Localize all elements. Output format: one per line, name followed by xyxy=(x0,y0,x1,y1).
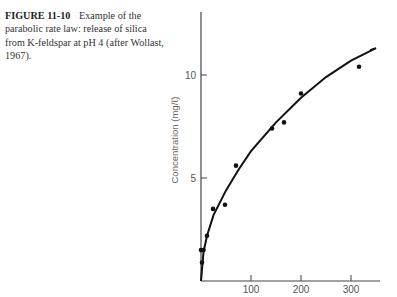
data-point xyxy=(357,64,362,69)
chart-labels: 100200300510Concentration (mg/ℓ) xyxy=(169,70,360,295)
data-point xyxy=(223,202,228,207)
data-point xyxy=(270,126,275,131)
data-point xyxy=(299,91,304,96)
data-point xyxy=(234,163,239,168)
x-tick-label: 200 xyxy=(293,284,310,295)
data-point xyxy=(282,120,287,125)
fit-curve xyxy=(201,48,376,281)
y-tick-label: 10 xyxy=(185,70,197,81)
x-tick-label: 100 xyxy=(243,284,260,295)
data-points xyxy=(199,64,362,264)
y-tick-label: 5 xyxy=(190,173,196,184)
chart: 100200300510Concentration (mg/ℓ) xyxy=(0,0,397,297)
y-axis-title: Concentration (mg/ℓ) xyxy=(169,96,180,183)
data-point xyxy=(211,207,216,212)
data-point xyxy=(205,233,210,238)
x-tick-label: 300 xyxy=(343,284,360,295)
data-point xyxy=(201,248,206,253)
chart-axes xyxy=(201,12,380,281)
data-point xyxy=(200,260,205,265)
